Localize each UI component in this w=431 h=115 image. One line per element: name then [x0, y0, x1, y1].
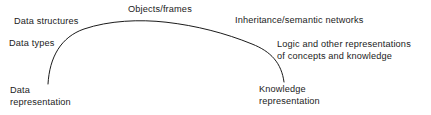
label-objects-frames: Objects/frames — [128, 4, 192, 16]
label-data-structures: Data structures — [14, 16, 79, 28]
label-inheritance-semantic-networks: Inheritance/semantic networks — [235, 15, 363, 27]
label-data-representation: Data representation — [10, 85, 71, 108]
label-logic-and-other-representations: Logic and other representations of conce… — [277, 39, 411, 62]
continuum-arc — [48, 21, 284, 84]
label-data-types: Data types — [9, 38, 54, 50]
label-knowledge-representation: Knowledge representation — [259, 84, 320, 107]
knowledge-representation-continuum-figure: Objects/frames Data structures Inheritan… — [0, 0, 431, 115]
